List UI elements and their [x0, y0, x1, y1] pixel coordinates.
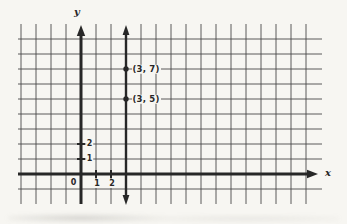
plot-canvas: [0, 0, 347, 224]
point-label-0: (3, 7): [132, 65, 161, 74]
y-tick-label-1: 2: [86, 140, 94, 148]
coordinate-grid-figure: y x 0 1 2 1 2 (3, 7) (3, 5): [0, 0, 347, 224]
y-axis-label: y: [74, 6, 80, 17]
point-label-1: (3, 5): [132, 95, 161, 104]
x-tick-label-0: 1: [93, 180, 101, 188]
y-tick-label-0: 1: [86, 155, 94, 163]
x-tick-label-1: 2: [108, 180, 116, 188]
x-axis-label: x: [325, 167, 331, 178]
origin-label: 0: [70, 179, 78, 187]
